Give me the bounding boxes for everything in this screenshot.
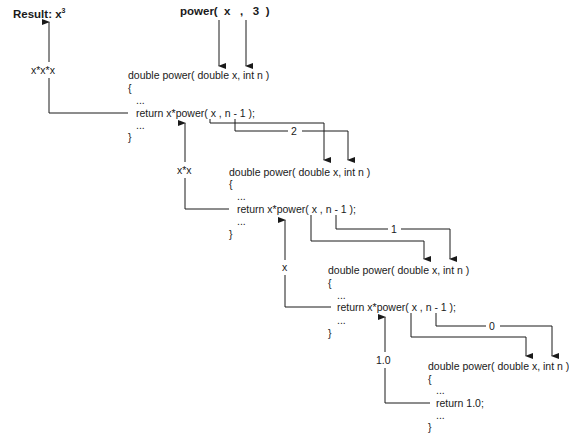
return-statement: return x*power( x , n - 1 ); — [237, 203, 356, 215]
close-brace: } — [428, 421, 432, 433]
n-value-label: 2 — [289, 125, 299, 137]
function-signature: double power( double x, int n ) — [128, 69, 269, 81]
ellipsis: ... — [136, 94, 145, 106]
ellipsis: ... — [436, 409, 445, 421]
return-value-label: 1.0 — [374, 354, 393, 366]
return-value-label: x*x*x — [29, 64, 57, 76]
open-brace: { — [428, 373, 432, 385]
return-statement: return x*power( x , n - 1 ); — [136, 107, 255, 119]
ellipsis: ... — [337, 289, 346, 301]
open-brace: { — [328, 277, 332, 289]
ellipsis: ... — [337, 314, 346, 326]
initial-call: power( x , 3 ) — [180, 5, 269, 17]
open-brace: { — [229, 178, 233, 190]
close-brace: } — [229, 228, 233, 240]
function-signature: double power( double x, int n ) — [229, 166, 370, 178]
ellipsis: ... — [136, 119, 145, 131]
n-value-label: 0 — [487, 320, 497, 332]
function-signature: double power( double x, int n ) — [328, 264, 469, 276]
return-value-label: x*x — [175, 164, 194, 176]
open-brace: { — [128, 82, 132, 94]
n-value-label: 1 — [389, 223, 399, 235]
function-signature: double power( double x, int n ) — [428, 360, 569, 372]
return-statement: return 1.0; — [436, 397, 484, 409]
result-label: Result: x3 — [13, 5, 65, 20]
return-statement: return x*power( x , n - 1 ); — [337, 301, 456, 313]
ellipsis: ... — [436, 384, 445, 396]
ellipsis: ... — [237, 215, 246, 227]
ellipsis: ... — [237, 190, 246, 202]
close-brace: } — [328, 327, 332, 339]
close-brace: } — [128, 131, 132, 143]
return-value-label: x — [280, 261, 289, 273]
